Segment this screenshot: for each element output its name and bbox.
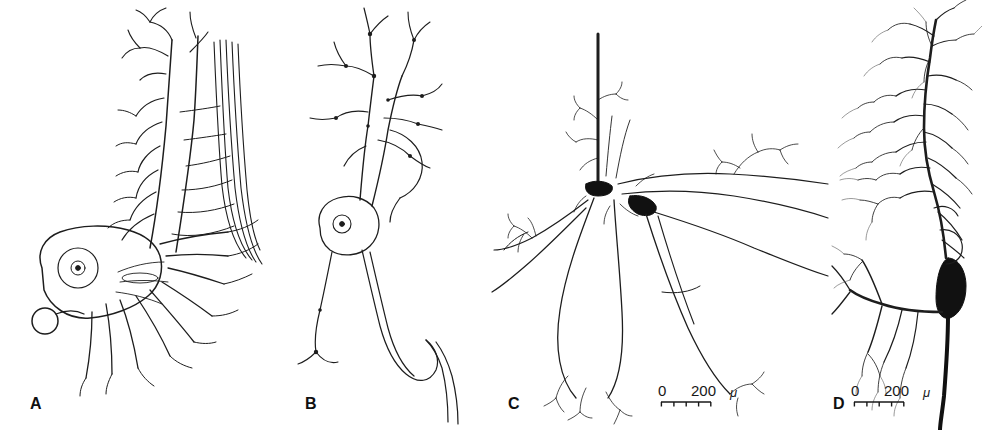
figure-canvas: A xyxy=(0,0,982,430)
neuron-drawing-c xyxy=(490,0,830,430)
scale-bar-c-value: 200 xyxy=(691,383,716,398)
neuron-drawing-b xyxy=(290,0,490,430)
scale-bar-d-zero: 0 xyxy=(851,383,859,398)
neuron-drawing-a xyxy=(0,0,290,430)
scale-bar-d-value: 200 xyxy=(884,383,909,398)
panel-label-a: A xyxy=(30,396,42,412)
panel-a: A xyxy=(0,0,290,430)
panel-label-c: C xyxy=(508,396,520,412)
scale-bar-d-ruler xyxy=(853,400,905,408)
panel-label-b: B xyxy=(305,396,317,412)
scale-bar-c-ruler xyxy=(660,400,712,408)
scale-bar-d-unit: μ xyxy=(923,386,930,399)
panel-label-d: D xyxy=(833,396,845,412)
scale-bar-c-unit: μ xyxy=(730,386,737,399)
scale-bar-c-zero: 0 xyxy=(658,383,666,398)
panel-d: D 0 200 μ xyxy=(830,0,982,430)
panel-c: C 0 200 μ xyxy=(490,0,830,430)
panel-b: B xyxy=(290,0,490,430)
neuron-drawing-d xyxy=(830,0,982,430)
